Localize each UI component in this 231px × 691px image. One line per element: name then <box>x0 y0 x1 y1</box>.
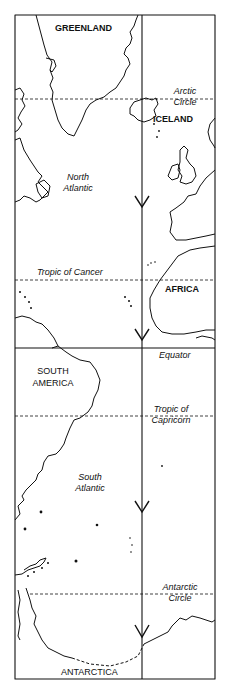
antarctica-ice-shelf <box>72 644 144 666</box>
label-arctic: Arctic <box>165 86 205 97</box>
label-antarctic-circle: Antarctic Circle <box>158 582 202 604</box>
label-south-america-text: SOUTH AMERICA <box>31 365 75 389</box>
label-atlantic-south: Atlantic <box>70 483 110 494</box>
newfoundland <box>36 180 50 198</box>
label-equator: Equator <box>159 350 191 361</box>
norway-coast <box>208 118 215 148</box>
atlantic-map: GREENLAND Arctic Circle ICELAND North At… <box>0 0 231 691</box>
label-greenland: GREENLAND <box>55 23 112 34</box>
antarctica-coast-west <box>18 590 20 640</box>
label-atlantic: Atlantic <box>58 183 98 194</box>
label-tropic-of: Tropic of <box>147 404 195 415</box>
label-africa: AFRICA <box>165 284 199 295</box>
labrador-coast <box>15 138 48 202</box>
guinea-gulf-coast <box>196 336 215 340</box>
caribbean-coast <box>15 316 58 346</box>
ireland-coast <box>168 164 180 180</box>
label-south-america: SOUTH AMERICA <box>25 365 81 389</box>
label-iceland: ICELAND <box>153 114 193 125</box>
label-antarctica: ANTARCTICA <box>61 667 118 678</box>
antarctica-coast-east <box>144 616 215 644</box>
label-north-atlantic: North Atlantic <box>58 172 98 194</box>
label-tropic-of-cancer: Tropic of Cancer <box>37 267 103 278</box>
label-north: North <box>58 172 98 183</box>
label-arctic-circle: Arctic Circle <box>165 86 205 108</box>
britain-coast <box>178 146 196 184</box>
label-circle-south: Circle <box>158 593 202 604</box>
label-antarctic: Antarctic <box>158 582 202 593</box>
label-capricorn: Capricorn <box>147 415 195 426</box>
label-south-atlantic: South Atlantic <box>70 472 110 494</box>
baffin-coast <box>15 88 25 132</box>
label-south: South <box>70 472 110 483</box>
label-tropic-of-capricorn: Tropic of Capricorn <box>147 404 195 426</box>
label-circle: Circle <box>165 97 205 108</box>
antarctica-peninsula <box>26 588 72 658</box>
south-america-tip <box>15 558 46 575</box>
